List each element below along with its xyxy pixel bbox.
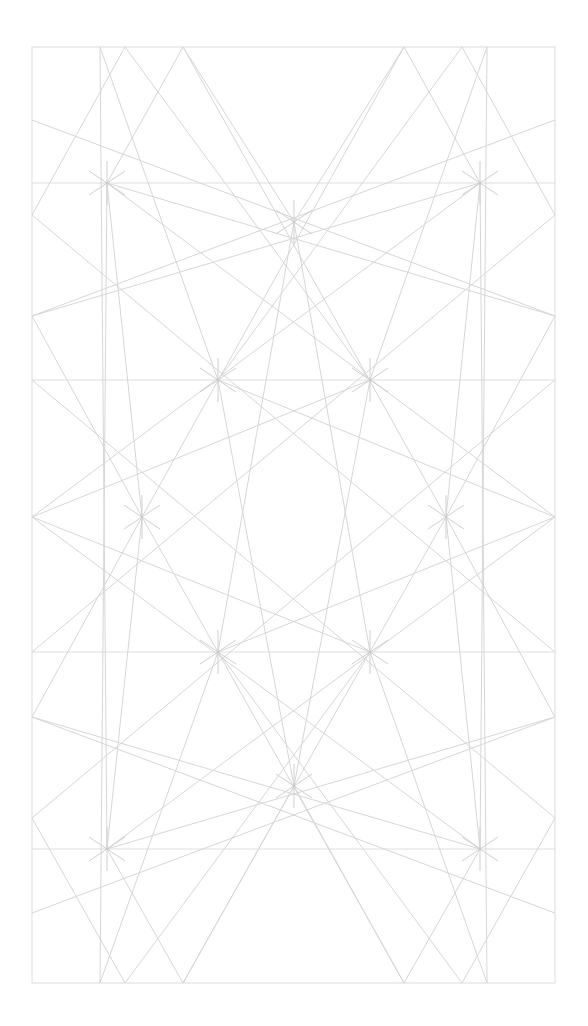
construction-line xyxy=(462,47,555,215)
construction-line xyxy=(32,47,125,215)
construction-line xyxy=(480,183,487,983)
construction-line xyxy=(32,380,370,517)
construction-line xyxy=(107,183,142,517)
construction-line xyxy=(183,47,446,517)
construction-line xyxy=(480,47,487,849)
construction-line xyxy=(107,183,555,316)
star-vertex-markers xyxy=(89,161,498,871)
construction-line xyxy=(32,818,125,983)
construction-line xyxy=(107,517,142,849)
star-vertex xyxy=(124,495,160,539)
construction-line xyxy=(107,849,183,983)
construction-line xyxy=(183,517,446,983)
star-vertex xyxy=(428,495,464,539)
horizontal-guide-lines xyxy=(32,183,555,849)
construction-line xyxy=(32,316,142,517)
construction-lines xyxy=(32,47,555,983)
construction-line xyxy=(32,517,142,717)
construction-line xyxy=(142,47,404,517)
star-vertex xyxy=(276,764,312,808)
construction-line xyxy=(32,183,480,316)
construction-line xyxy=(218,652,462,983)
construction-line xyxy=(32,183,480,517)
construction-line xyxy=(100,47,218,380)
geometric-pattern-canvas xyxy=(0,0,588,1026)
construction-line xyxy=(218,380,294,786)
construction-line xyxy=(183,47,294,222)
construction-line xyxy=(107,183,555,517)
construction-line xyxy=(32,517,370,652)
construction-line xyxy=(218,47,462,380)
construction-line xyxy=(462,818,555,983)
construction-line xyxy=(294,380,370,786)
outer-frame xyxy=(32,47,555,983)
construction-line xyxy=(125,652,370,983)
construction-line xyxy=(446,517,555,717)
construction-line xyxy=(294,47,404,222)
construction-line xyxy=(446,517,480,849)
construction-line xyxy=(370,47,487,380)
construction-line xyxy=(100,47,107,849)
construction-line xyxy=(125,47,370,380)
construction-line xyxy=(107,517,555,849)
construction-line xyxy=(404,849,480,983)
construction-line xyxy=(218,380,555,517)
construction-line xyxy=(100,652,218,983)
construction-line xyxy=(142,517,404,983)
construction-line xyxy=(218,517,555,652)
construction-line xyxy=(32,517,480,849)
construction-line xyxy=(446,316,555,517)
construction-line xyxy=(370,652,487,983)
